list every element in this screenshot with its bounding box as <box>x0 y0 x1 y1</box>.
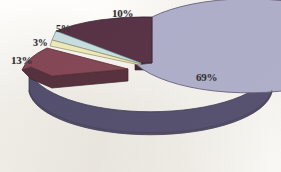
slice-label-69: 69% <box>196 71 217 83</box>
pie-chart-graphic <box>0 0 281 172</box>
slice-label-13: 13% <box>11 54 32 66</box>
pie-chart-figure: 69% 10% 5% 3% 13% <box>0 0 281 172</box>
slice-label-10: 10% <box>112 7 133 19</box>
slice-label-3: 3% <box>33 37 48 48</box>
slice-label-5: 5% <box>56 23 71 34</box>
